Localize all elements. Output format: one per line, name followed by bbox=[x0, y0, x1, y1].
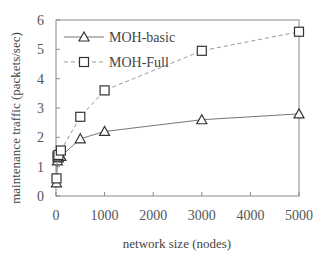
x-tick-label: 0 bbox=[53, 208, 60, 223]
x-tick-label: 2000 bbox=[139, 208, 167, 223]
x-tick-label: 3000 bbox=[188, 208, 216, 223]
line-chart: 0100020003000400050000123456 MOH-basicMO… bbox=[0, 0, 323, 266]
square-marker bbox=[76, 112, 85, 121]
square-marker bbox=[295, 27, 304, 36]
series-moh-basic bbox=[51, 109, 304, 187]
square-marker bbox=[197, 46, 206, 55]
y-tick-label: 6 bbox=[37, 13, 44, 28]
triangle-marker bbox=[75, 134, 85, 143]
legend: MOH-basicMOH-Full bbox=[64, 30, 175, 70]
plot-frame bbox=[56, 20, 299, 196]
y-tick-label: 5 bbox=[37, 42, 44, 57]
series-moh-full bbox=[52, 27, 304, 183]
square-marker bbox=[52, 174, 61, 183]
legend-label: MOH-basic bbox=[109, 30, 175, 45]
y-axis-title: maintenance traffic (packets/sec) bbox=[8, 32, 23, 204]
triangle-marker bbox=[294, 109, 304, 118]
series-line bbox=[56, 32, 299, 179]
series-line bbox=[56, 114, 299, 183]
legend-label: MOH-Full bbox=[109, 55, 169, 70]
y-tick-label: 3 bbox=[37, 101, 44, 116]
y-tick-label: 1 bbox=[37, 160, 44, 175]
x-tick-label: 5000 bbox=[285, 208, 313, 223]
x-tick-label: 4000 bbox=[236, 208, 264, 223]
square-marker bbox=[100, 86, 109, 95]
x-tick-label: 1000 bbox=[91, 208, 119, 223]
legend-square-icon bbox=[80, 58, 89, 67]
y-tick-label: 0 bbox=[37, 189, 44, 204]
x-axis-title: network size (nodes) bbox=[123, 236, 231, 251]
y-tick-label: 4 bbox=[37, 72, 44, 87]
square-marker bbox=[56, 146, 65, 155]
y-tick-label: 2 bbox=[37, 130, 44, 145]
series-group bbox=[51, 27, 304, 187]
